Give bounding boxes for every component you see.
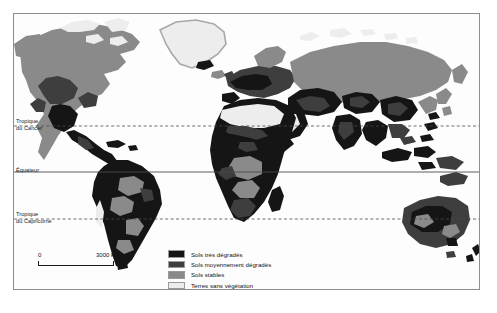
map-legend: Sols très dégradés Sols moyennement dégr… xyxy=(168,249,271,291)
tropic-of-capricorn-label-line1: Tropique xyxy=(16,211,52,218)
landmass-australia xyxy=(402,172,481,262)
scale-bar-zero-label: 0 xyxy=(38,252,41,258)
landmass-asia xyxy=(274,28,468,150)
scale-bar-max-label: 3000 km xyxy=(96,252,119,258)
legend-label-very-degraded: Sols très dégradés xyxy=(191,251,243,258)
legend-swatch-stable xyxy=(168,271,185,279)
landmass-iceland xyxy=(211,70,226,79)
equator-label: Équateur xyxy=(16,167,39,174)
legend-label-stable: Sols stables xyxy=(191,271,224,278)
landmass-north-america xyxy=(14,18,140,166)
landmass-europe xyxy=(222,46,296,105)
tropic-of-cancer-label-line1: Tropique xyxy=(16,118,42,125)
legend-item-very-degraded: Sols très dégradés xyxy=(168,249,271,259)
landmass-africa xyxy=(210,98,296,222)
legend-swatch-very-degraded xyxy=(168,250,185,258)
tropic-of-cancer-label: Tropique du Cancer xyxy=(16,118,42,132)
tropic-of-cancer-label-line2: du Cancer xyxy=(16,125,42,132)
world-map-figure: Tropique du Cancer Équateur Tropique du … xyxy=(0,0,497,313)
scale-bar: 0 3000 km xyxy=(38,252,114,266)
legend-swatch-moderately-degraded xyxy=(168,261,185,269)
legend-label-no-vegetation: Terres sans végétation xyxy=(191,282,253,289)
legend-item-no-vegetation: Terres sans végétation xyxy=(168,280,271,290)
scale-bar-labels: 0 3000 km xyxy=(38,252,114,261)
scale-bar-rule xyxy=(38,261,114,266)
tropic-of-capricorn-label-line2: du Capricorne xyxy=(16,218,52,225)
legend-item-moderately-degraded: Sols moyennement dégradés xyxy=(168,259,271,269)
legend-item-stable: Sols stables xyxy=(168,270,271,280)
legend-label-moderately-degraded: Sols moyennement dégradés xyxy=(191,261,271,268)
landmass-greenland xyxy=(160,20,226,70)
legend-swatch-no-vegetation xyxy=(168,282,185,290)
tropic-of-capricorn-label: Tropique du Capricorne xyxy=(16,211,52,225)
